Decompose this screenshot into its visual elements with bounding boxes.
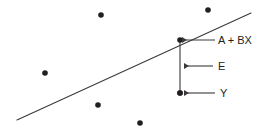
annotation-label: Y	[220, 87, 228, 99]
regression-diagram-canvas: A + BXEY	[0, 0, 273, 132]
annotation-group: A + BXEY	[182, 34, 253, 99]
scatter-point	[95, 102, 101, 108]
annotation-label: E	[218, 60, 225, 72]
regression-diagram: A + BXEY A + BX E Y	[0, 0, 273, 132]
regression-line	[17, 13, 251, 120]
annotation-label: A + BX	[218, 34, 253, 46]
observed-value-point	[177, 90, 183, 96]
scatter-point	[137, 120, 143, 126]
scatter-point	[42, 70, 48, 76]
scatter-point	[98, 12, 104, 18]
scatter-point	[205, 7, 211, 13]
fitted-value-point	[177, 37, 183, 43]
